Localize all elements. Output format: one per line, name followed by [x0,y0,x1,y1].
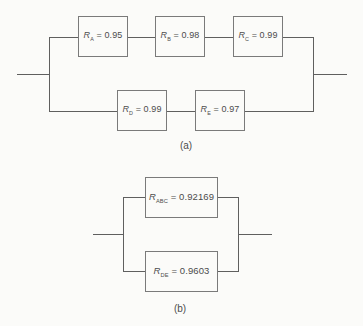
block-rb-label: RB = 0.98 [161,30,200,42]
block-re: RE = 0.97 [195,90,245,131]
block-rde-label: RDE = 0.9603 [154,265,210,279]
diagram-a-caption: (a) [166,140,206,151]
block-rde: RDE = 0.9603 [145,251,218,292]
b-output-line [238,234,272,235]
block-re-label: RE = 0.97 [201,104,240,116]
block-rd-label: RD = 0.99 [122,104,161,116]
diagram-b-caption: (b) [160,303,200,314]
a-output-line [313,74,347,75]
block-ra: RA = 0.95 [78,16,128,57]
a-left-junction-line [49,37,50,112]
block-rb: RB = 0.98 [155,16,205,57]
block-rd: RD = 0.99 [117,90,167,131]
b-left-junction-line [123,197,124,272]
a-bottom-branch-line [49,111,313,112]
block-rabc-label: RABC = 0.92169 [149,191,214,205]
block-rc-label: RC = 0.99 [238,30,277,42]
block-rabc: RABC = 0.92169 [145,177,218,218]
block-ra-label: RA = 0.95 [84,30,123,42]
block-rc: RC = 0.99 [233,16,283,57]
reliability-block-diagram-figure: RA = 0.95 RB = 0.98 RC = 0.99 RD = 0.99 … [0,0,363,326]
b-input-line [93,234,123,235]
a-input-line [17,74,49,75]
